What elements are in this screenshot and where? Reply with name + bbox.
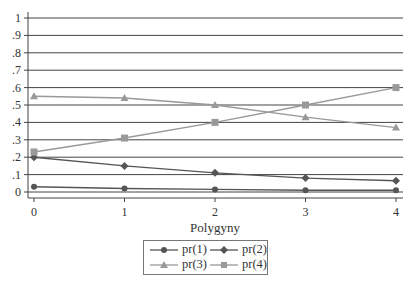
series-group xyxy=(30,84,400,193)
legend-label: pr(2) xyxy=(242,242,267,257)
legend: pr(1) pr(2) pr(3) pr(4) xyxy=(143,240,268,275)
x-axis: 01234 xyxy=(28,198,403,219)
square-marker-icon xyxy=(210,260,238,270)
y-tick-label: 1 xyxy=(15,11,21,25)
x-axis-label: Polygyny xyxy=(190,220,240,235)
series-pr(2) xyxy=(30,153,400,184)
y-tick-label: .6 xyxy=(12,81,21,95)
y-tick-label: .2 xyxy=(12,150,21,164)
legend-label: pr(3) xyxy=(182,257,207,272)
y-tick-label: .9 xyxy=(12,28,21,42)
legend-item-pr1: pr(1) xyxy=(150,242,207,257)
legend-label: pr(4) xyxy=(242,257,267,272)
x-tick-label: 4 xyxy=(393,205,399,219)
triangle-marker-icon xyxy=(150,260,178,270)
y-tick-label: .7 xyxy=(12,63,21,77)
legend-item-pr4: pr(4) xyxy=(210,257,267,272)
circle-marker-icon xyxy=(150,245,178,255)
series-pr(4) xyxy=(31,84,400,155)
y-tick-label: 0 xyxy=(15,185,21,199)
x-tick-label: 0 xyxy=(31,205,37,219)
diamond-marker-icon xyxy=(210,245,238,255)
x-tick-label: 1 xyxy=(122,205,128,219)
y-tick-label: .3 xyxy=(12,133,21,147)
y-axis: 0.1.2.3.4.5.6.7.8.91 xyxy=(12,11,28,199)
x-tick-label: 2 xyxy=(212,205,218,219)
legend-label: pr(1) xyxy=(182,242,207,257)
y-tick-label: .4 xyxy=(12,115,21,129)
y-tick-label: .5 xyxy=(12,98,21,112)
line-chart: 0.1.2.3.4.5.6.7.8.91 01234 Polygyny xyxy=(0,0,411,240)
x-tick-label: 3 xyxy=(303,205,309,219)
y-tick-label: .8 xyxy=(12,46,21,60)
y-tick-label: .1 xyxy=(12,168,21,182)
legend-item-pr2: pr(2) xyxy=(210,242,267,257)
legend-item-pr3: pr(3) xyxy=(150,257,207,272)
